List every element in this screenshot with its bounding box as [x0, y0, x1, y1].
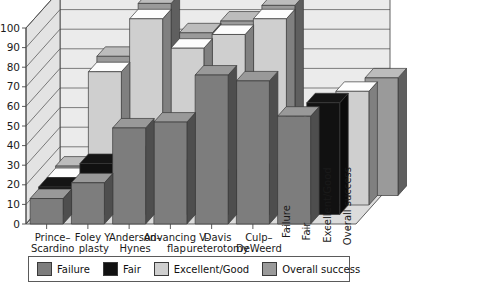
x-axis-tick-label: flap: [167, 243, 186, 254]
legend-item-fair[interactable]: Fair: [103, 262, 141, 276]
y-axis-tick-label: 70: [7, 80, 20, 92]
depth-axis-tick-label: Failure: [281, 205, 292, 238]
chart-root: 0102030405060708090100Prince–ScardinoFol…: [0, 0, 492, 292]
svg-text:Failure: Failure: [281, 205, 292, 238]
legend-swatch-overall-success: [262, 262, 277, 276]
y-axis-tick-label: 60: [7, 100, 20, 112]
depth-axis-tick-label: Overall success: [342, 167, 353, 245]
bar-3d: [71, 173, 113, 224]
legend-item-excellent-good[interactable]: Excellent/Good: [154, 262, 249, 276]
legend-label-overall-success: Overall success: [282, 264, 360, 275]
legend-label-fair: Fair: [123, 264, 141, 275]
bar-3d: [30, 189, 72, 224]
y-axis-tick-label: 20: [7, 178, 20, 190]
x-axis-tick-label: DeWeerd: [236, 243, 282, 254]
x-axis-tick-label: Foley Y-: [75, 232, 113, 243]
x-axis-tick-label: Advancing V-: [144, 232, 210, 243]
y-axis-tick-label: 10: [7, 198, 20, 210]
y-axis-tick-label: 80: [7, 61, 20, 73]
x-axis-tick-label: Prince–: [35, 232, 71, 243]
svg-text:Overall success: Overall success: [342, 167, 353, 245]
legend-swatch-excellent-good: [154, 262, 169, 276]
x-axis-tick-label: Hynes: [120, 243, 151, 254]
svg-text:Fair: Fair: [301, 222, 312, 241]
x-axis-tick-label: plasty: [79, 243, 109, 254]
legend-item-failure[interactable]: Failure: [37, 262, 90, 276]
bar-3d: [195, 66, 237, 224]
x-axis-tick-label: Scardino: [31, 243, 75, 254]
y-axis-tick-label: 100: [0, 22, 20, 34]
bar-chart-3d: 0102030405060708090100Prince–ScardinoFol…: [0, 0, 492, 292]
svg-text:Excellent/Good: Excellent/Good: [322, 167, 333, 242]
x-axis-tick-label: Culp–: [245, 232, 272, 243]
x-axis-tick-label: Davis: [204, 232, 232, 243]
chart-legend: Failure Fair Excellent/Good Overall succ…: [28, 256, 350, 282]
chart-svg: 0102030405060708090100Prince–ScardinoFol…: [0, 0, 492, 292]
legend-item-overall-success[interactable]: Overall success: [262, 262, 360, 276]
y-axis-tick-label: 90: [7, 41, 20, 53]
bar-3d: [113, 118, 155, 224]
bar-3d: [154, 113, 196, 224]
y-axis-tick-label: 0: [13, 218, 20, 230]
legend-label-excellent-good: Excellent/Good: [174, 264, 249, 275]
depth-axis-tick-label: Excellent/Good: [322, 167, 333, 242]
legend-swatch-fair: [103, 262, 118, 276]
y-axis-tick-label: 50: [7, 120, 20, 132]
y-axis-tick-label: 30: [7, 159, 20, 171]
depth-axis-tick-label: Fair: [301, 222, 312, 241]
y-axis-tick-label: 40: [7, 139, 20, 151]
legend-label-failure: Failure: [57, 264, 90, 275]
legend-swatch-failure: [37, 262, 52, 276]
bar-3d: [236, 71, 278, 224]
